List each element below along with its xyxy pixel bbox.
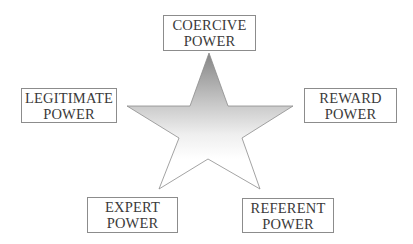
legitimate-label-line2: POWER	[43, 106, 95, 122]
reward-label-line2: POWER	[325, 106, 377, 122]
expert-label-line1: EXPERT	[105, 199, 160, 215]
expert-label-line2: POWER	[107, 215, 159, 231]
legitimate-label-line1: LEGITIMATE	[25, 90, 113, 106]
power-star-diagram: COERCIVE POWER LEGITIMATE POWER REWARD P…	[0, 0, 413, 244]
reward-label-line1: REWARD	[319, 90, 381, 106]
reward-power-box: REWARD POWER	[304, 88, 397, 123]
coercive-power-box: COERCIVE POWER	[163, 15, 256, 51]
coercive-label-line1: COERCIVE	[172, 17, 246, 33]
coercive-label-line2: POWER	[184, 33, 236, 49]
referent-label-line1: REFERENT	[251, 200, 326, 216]
legitimate-power-box: LEGITIMATE POWER	[21, 88, 117, 123]
referent-power-box: REFERENT POWER	[242, 198, 334, 233]
referent-label-line2: POWER	[262, 216, 314, 232]
expert-power-box: EXPERT POWER	[87, 197, 178, 233]
